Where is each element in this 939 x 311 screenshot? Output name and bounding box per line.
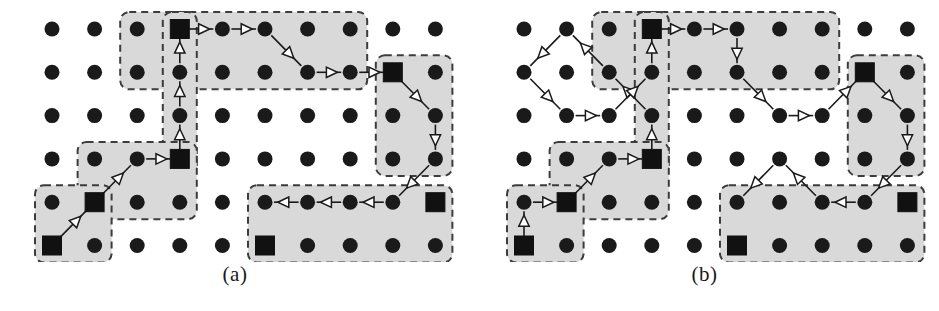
grid-dot <box>385 22 400 37</box>
grid-dot <box>815 108 830 123</box>
grid-dot <box>900 151 915 166</box>
grid-dot <box>87 22 102 37</box>
edge-b9 <box>530 79 560 110</box>
grid-dot <box>857 195 872 210</box>
landmark-square-bottom-left <box>43 236 62 255</box>
edge-b10-arrowhead <box>585 110 596 120</box>
landmark-square-right-upper <box>383 63 402 82</box>
grid-dot <box>87 151 102 166</box>
grid-dot <box>343 108 358 123</box>
grid-dot <box>644 65 659 80</box>
grid-dot <box>258 65 273 80</box>
grid-dot <box>385 195 400 210</box>
grid-dot <box>87 108 102 123</box>
grid-dot <box>857 22 872 37</box>
grid-dot <box>815 195 830 210</box>
grid-dot <box>215 238 230 253</box>
grid-dot <box>730 108 745 123</box>
grid-dot <box>130 108 145 123</box>
grid-dot <box>559 238 574 253</box>
grid-dot <box>428 22 443 37</box>
grid-dot <box>215 22 230 37</box>
grid-dot <box>172 195 187 210</box>
region-top-strip-fill-0 <box>592 12 839 89</box>
grid-dot <box>258 151 273 166</box>
grid-dot <box>343 151 358 166</box>
grid-dot <box>343 65 358 80</box>
grid-dot <box>215 65 230 80</box>
grid-dot <box>602 195 617 210</box>
grid-dot <box>644 195 659 210</box>
grid-dot <box>644 238 659 253</box>
region-group <box>35 12 452 262</box>
grid-dot <box>687 238 702 253</box>
grid-dot <box>130 22 145 37</box>
panel-b-diagram <box>470 0 939 262</box>
region-top-strip <box>592 12 839 89</box>
grid-dot <box>602 22 617 37</box>
grid-dot <box>857 108 872 123</box>
grid-dot <box>45 65 60 80</box>
region-group <box>507 12 924 262</box>
grid-dot <box>45 108 60 123</box>
grid-dot <box>559 151 574 166</box>
grid-dot <box>857 238 872 253</box>
edge-b8 <box>530 35 560 66</box>
grid-dot <box>687 65 702 80</box>
region-top-strip <box>120 12 367 89</box>
grid-dot <box>300 65 315 80</box>
grid-dot <box>45 22 60 37</box>
grid-dot <box>172 65 187 80</box>
grid-dot <box>602 65 617 80</box>
grid-dot <box>900 22 915 37</box>
panel-a: (a) <box>0 0 470 311</box>
grid-dot <box>130 238 145 253</box>
grid-dot <box>517 151 532 166</box>
grid-dot <box>857 151 872 166</box>
grid-dot <box>517 22 532 37</box>
grid-dot <box>772 22 787 37</box>
figure-root: (a) (b) <box>0 0 939 311</box>
grid-dot <box>428 65 443 80</box>
grid-dot <box>300 238 315 253</box>
grid-dot <box>559 65 574 80</box>
grid-dot <box>772 108 787 123</box>
grid-dot <box>644 108 659 123</box>
landmark-square-lower-left <box>85 193 104 212</box>
grid-dot <box>815 65 830 80</box>
landmark-square-top <box>642 20 661 39</box>
region-top-strip-fill-0 <box>120 12 367 89</box>
edge-b10 <box>576 110 601 120</box>
grid-dot <box>730 195 745 210</box>
grid-dot <box>87 238 102 253</box>
panel-a-diagram <box>0 0 470 262</box>
grid-dot <box>343 238 358 253</box>
grid-dot <box>343 22 358 37</box>
grid-dot <box>87 65 102 80</box>
grid-dot <box>215 108 230 123</box>
grid-dot <box>730 65 745 80</box>
grid-dot <box>300 151 315 166</box>
grid-dot <box>428 238 443 253</box>
grid-dot <box>130 65 145 80</box>
grid-dot <box>687 151 702 166</box>
grid-dot <box>258 108 273 123</box>
grid-dot <box>687 108 702 123</box>
grid-dot <box>900 65 915 80</box>
grid-dot <box>602 108 617 123</box>
grid-dot <box>172 108 187 123</box>
grid-dot <box>559 22 574 37</box>
grid-dot <box>815 151 830 166</box>
grid-dot <box>772 195 787 210</box>
grid-dot <box>815 22 830 37</box>
grid-dot <box>300 22 315 37</box>
grid-dot <box>385 108 400 123</box>
landmark-square-bottom-mid <box>256 236 275 255</box>
grid-dot <box>258 195 273 210</box>
grid-dot <box>517 108 532 123</box>
landmark-square-right-lower <box>426 193 445 212</box>
panel-b-caption: (b) <box>470 262 939 287</box>
grid-dot <box>602 238 617 253</box>
edge-b17 <box>789 110 814 120</box>
grid-dot <box>215 195 230 210</box>
